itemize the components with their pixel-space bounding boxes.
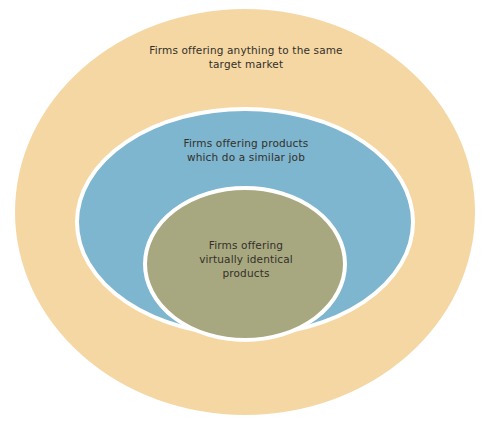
ellipse-inner-label: Firms offering virtually identical produ…	[150, 238, 342, 280]
nested-ellipse-diagram: Firms offering anything to the same targ…	[0, 0, 492, 427]
ellipse-outer-label: Firms offering anything to the same targ…	[96, 43, 396, 71]
ellipse-middle-label: Firms offering products which do a simil…	[120, 136, 372, 164]
